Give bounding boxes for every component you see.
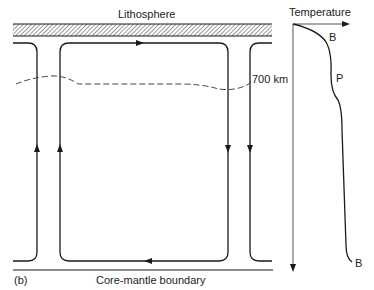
lithosphere-layer <box>13 24 272 36</box>
700km-discontinuity-line <box>16 76 252 90</box>
core-mantle-boundary-label: Core-mantle boundary <box>96 275 205 286</box>
mantle-convection-diagram <box>0 0 374 290</box>
boundary-layer-label-lower: B <box>355 258 362 269</box>
temperature-curve <box>293 24 352 262</box>
arrow-down-icon <box>247 145 253 153</box>
left-outer-flow-line <box>13 43 37 261</box>
boundary-layer-label-upper: B <box>329 32 336 43</box>
temperature-arrow-right-icon <box>342 21 350 27</box>
arrow-down-icon <box>225 145 231 153</box>
arrow-left-icon <box>144 258 152 264</box>
depth-arrow-down-icon <box>290 264 296 272</box>
flow-arrows <box>34 40 253 264</box>
arrow-up-icon <box>34 144 40 152</box>
700km-label: 700 km <box>252 74 288 85</box>
plateau-label: P <box>336 73 343 84</box>
arrow-right-icon <box>136 40 144 46</box>
central-convection-cell <box>60 43 228 261</box>
panel-label: (b) <box>14 275 27 286</box>
arrow-up-icon <box>57 144 63 152</box>
temperature-axis-label: Temperature <box>289 7 351 18</box>
temperature-profile-axes <box>290 21 350 272</box>
lithosphere-label: Lithosphere <box>118 9 176 20</box>
